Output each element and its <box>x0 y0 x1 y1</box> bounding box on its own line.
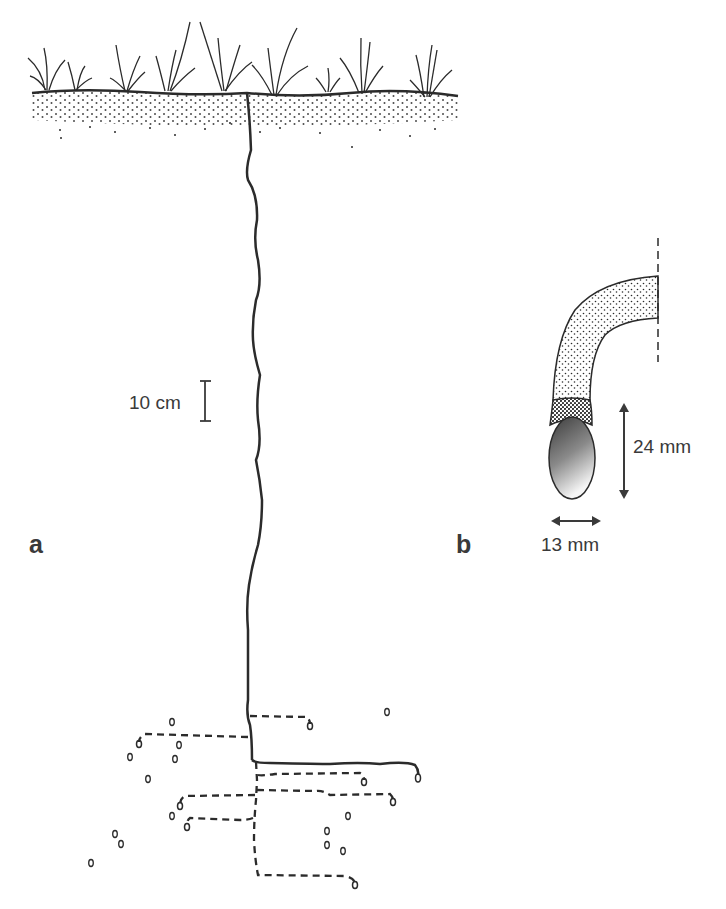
panel-a-illustration <box>26 22 458 889</box>
curved-tunnel <box>553 276 658 400</box>
grass-tufts <box>28 22 452 97</box>
figure-canvas <box>0 0 726 909</box>
main-burrow-shaft <box>247 93 262 760</box>
scattered-chambers <box>89 709 390 867</box>
length-arrow <box>619 403 629 499</box>
length-dimension-label: 24 mm <box>633 436 691 458</box>
scale-bar-label: 10 cm <box>129 392 181 414</box>
width-arrow <box>551 516 601 526</box>
panel-b-illustration <box>549 238 658 526</box>
panel-label-b: b <box>456 530 471 559</box>
gallery-end-chambers <box>137 723 396 889</box>
width-dimension-label: 13 mm <box>541 534 599 556</box>
egg-chamber <box>549 417 595 499</box>
scale-bar <box>200 381 211 421</box>
soil-layer <box>26 90 458 148</box>
side-galleries <box>139 716 393 883</box>
panel-label-a: a <box>29 530 43 559</box>
